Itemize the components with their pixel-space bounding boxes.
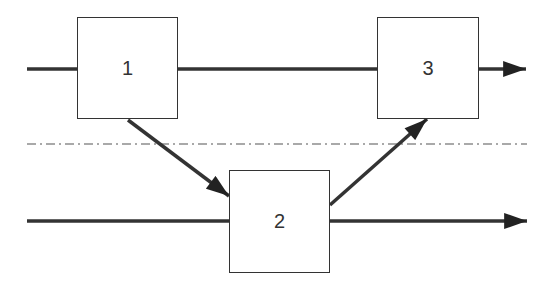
box-3-label: 3 xyxy=(422,57,433,80)
box-2-label: 2 xyxy=(274,210,285,233)
box-1-label: 1 xyxy=(122,57,133,80)
arrow-1-to-2 xyxy=(128,120,229,196)
arrow-2-to-3 xyxy=(330,119,427,205)
process-box-2: 2 xyxy=(229,170,330,273)
process-box-1: 1 xyxy=(77,17,178,119)
process-box-3: 3 xyxy=(377,17,479,119)
